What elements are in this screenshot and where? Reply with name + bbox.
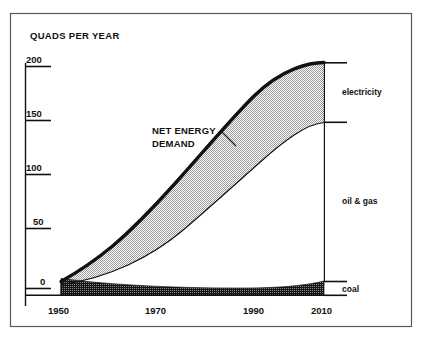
legend-label-electricity: electricity bbox=[342, 87, 382, 97]
y-tick-label-100: 100 bbox=[26, 162, 42, 173]
legend-label-coal: coal bbox=[342, 284, 359, 294]
page-title: QUADS PER YEAR bbox=[30, 30, 120, 41]
x-tick-label-1950: 1950 bbox=[48, 305, 69, 316]
y-tick-label-200: 200 bbox=[26, 54, 42, 65]
x-tick-label-1970: 1970 bbox=[145, 305, 166, 316]
x-tick-label-2010: 2010 bbox=[311, 305, 332, 316]
x-tick-label-1990: 1990 bbox=[243, 305, 264, 316]
chart-canvas: QUADS PER YEAR 200 150 100 50 0 bbox=[0, 0, 428, 343]
net-energy-demand-label-line2: DEMAND bbox=[152, 138, 195, 149]
y-tick-label-150: 150 bbox=[26, 108, 42, 119]
legend-label-oil-and-gas: oil & gas bbox=[342, 196, 378, 206]
energy-demand-figure: QUADS PER YEAR 200 150 100 50 0 bbox=[0, 0, 428, 343]
net-energy-demand-label-line1: NET ENERGY bbox=[152, 125, 216, 136]
y-tick-label-50: 50 bbox=[33, 216, 44, 227]
y-tick-label-0: 0 bbox=[40, 276, 45, 287]
